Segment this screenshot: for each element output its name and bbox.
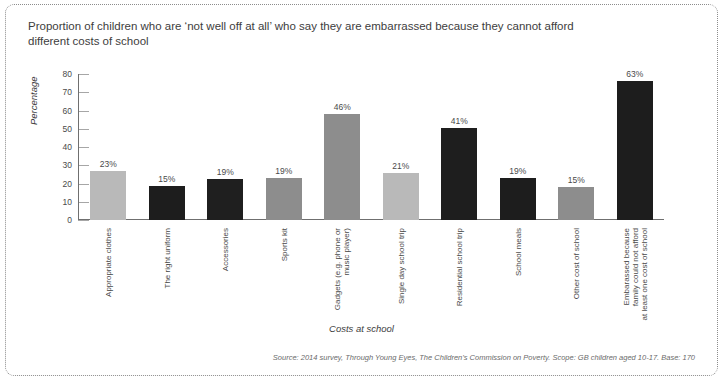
bar[interactable] xyxy=(383,173,419,220)
bar[interactable] xyxy=(617,81,653,220)
chart-card: Proportion of children who are ‘not well… xyxy=(5,4,718,376)
x-tick-label-line: Single day school trip xyxy=(396,228,405,324)
y-axis-tick-labels: 01020304050607080 xyxy=(44,74,72,220)
y-tick-label-40: 40 xyxy=(46,142,72,152)
bar[interactable] xyxy=(90,171,126,220)
x-tick-label-line: at least one cost of school xyxy=(639,228,648,324)
y-tick-label-60: 60 xyxy=(46,106,72,116)
bar-value-label: 15% xyxy=(158,174,175,184)
bar-group[interactable]: 23% xyxy=(90,171,126,220)
x-tick-label-line: Gadgets (e.g. phone or xyxy=(333,228,342,324)
x-tick-label-line: Other cost of school xyxy=(572,228,581,324)
x-tick-label-line: Accessories xyxy=(221,228,230,324)
y-axis-title: Percentage xyxy=(28,76,39,125)
bar-group[interactable]: 46% xyxy=(324,114,360,220)
bar-group[interactable]: 21% xyxy=(383,173,419,220)
x-tick-label-line: family could not afford xyxy=(630,228,639,324)
bar[interactable] xyxy=(500,178,536,220)
y-tick-label-50: 50 xyxy=(46,124,72,134)
x-tick-label-line: Residential school trip xyxy=(455,228,464,324)
x-tick-label-line: Appropriate clothes xyxy=(104,228,113,324)
bar[interactable] xyxy=(558,187,594,220)
bar-group[interactable]: 15% xyxy=(149,186,185,220)
x-tick-label-line: School meals xyxy=(513,228,522,324)
x-tick-label-line: Sports kit xyxy=(279,228,288,324)
x-axis-title: Costs at school xyxy=(6,323,717,334)
bar[interactable] xyxy=(207,179,243,220)
bar-value-label: 23% xyxy=(100,159,117,169)
x-tick-label-line: The right uniform xyxy=(162,228,171,324)
bar-group[interactable]: 63% xyxy=(617,81,653,220)
bar-value-label: 63% xyxy=(626,69,643,79)
y-tick-label-30: 30 xyxy=(46,160,72,170)
bar-value-label: 41% xyxy=(451,116,468,126)
y-tick-label-70: 70 xyxy=(46,87,72,97)
bar-value-label: 15% xyxy=(568,175,585,185)
bar-value-label: 19% xyxy=(217,167,234,177)
y-tick-label-10: 10 xyxy=(46,197,72,207)
y-tick-label-0: 0 xyxy=(46,215,72,225)
x-tick-label-line: Embarassed because xyxy=(621,228,630,324)
bar-group[interactable]: 19% xyxy=(500,178,536,220)
bar[interactable] xyxy=(266,178,302,220)
y-tick-label-80: 80 xyxy=(46,69,72,79)
bar-group[interactable]: 19% xyxy=(266,178,302,220)
x-tick-label: Embarassed becausefamily could not affor… xyxy=(635,228,725,255)
bar-group[interactable]: 15% xyxy=(558,187,594,220)
bar-value-label: 19% xyxy=(275,166,292,176)
x-tick-label-line: music player) xyxy=(342,228,351,324)
bar-value-label: 21% xyxy=(392,161,409,171)
bar[interactable] xyxy=(324,114,360,220)
chart-title: Proportion of children who are ‘not well… xyxy=(28,19,588,49)
y-tick-label-20: 20 xyxy=(46,179,72,189)
bar-value-label: 19% xyxy=(509,166,526,176)
bar[interactable] xyxy=(149,186,185,220)
y-tick-mark xyxy=(78,220,89,221)
source-note: Source: 2014 survey, Through Young Eyes,… xyxy=(273,353,695,362)
bar-value-label: 46% xyxy=(334,102,351,112)
bar[interactable] xyxy=(441,128,477,220)
bars-container: 23%Appropriate clothes15%The right unifo… xyxy=(79,74,664,220)
bar-group[interactable]: 41% xyxy=(441,128,477,220)
bar-group[interactable]: 19% xyxy=(207,179,243,220)
